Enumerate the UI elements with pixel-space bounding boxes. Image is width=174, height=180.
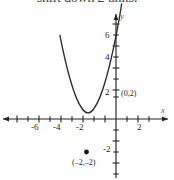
- x-tick-label-pos2: 2: [137, 123, 142, 132]
- vertex-point-marker: [84, 150, 89, 155]
- x-tick-label-neg2: -2: [76, 123, 84, 132]
- y-tick-label-neg2: -2: [103, 145, 111, 154]
- parabola-plot: [0, 0, 174, 180]
- y-tick-label-pos2: 2: [105, 88, 110, 97]
- x-axis-label: x: [161, 106, 165, 115]
- plot-canvas: [0, 0, 174, 180]
- x-axis-arrow-left: [3, 117, 9, 122]
- figure-root: shift down 2 units.: [0, 0, 174, 180]
- y-tick-label-pos6: 6: [105, 31, 110, 40]
- y-axis-arrow-top: [114, 14, 119, 20]
- y-tick-label-pos4: 4: [105, 53, 110, 62]
- x-tick-label-neg4: -4: [53, 123, 61, 132]
- x-tick-label-neg6: -6: [31, 123, 39, 132]
- y-axis-label: y: [120, 12, 124, 21]
- x-axis-arrow-right: [162, 117, 168, 122]
- annotation-vertex: (–2,–2): [72, 158, 95, 167]
- parabola-curve: [60, 4, 122, 113]
- annotation-y-intercept: (0,2): [121, 89, 136, 98]
